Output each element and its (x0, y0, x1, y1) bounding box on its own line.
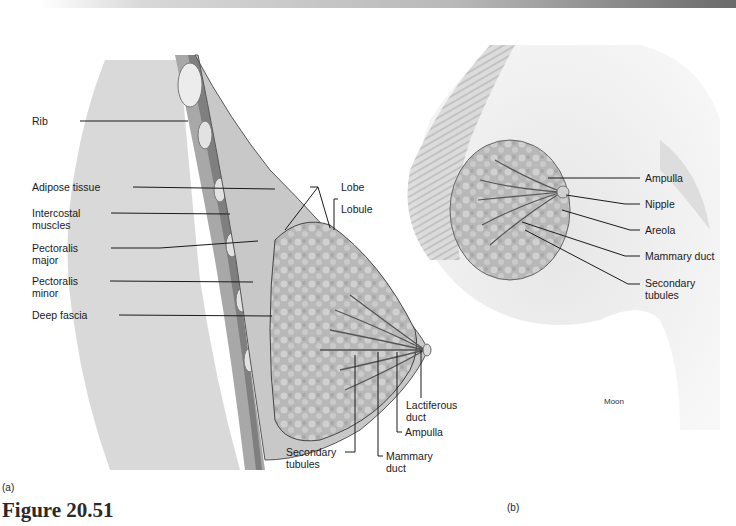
figure-caption: Figure 20.51 (2, 498, 114, 523)
label-secondary-tubules-a: Secondary tubules (286, 446, 336, 470)
label-rib: Rib (32, 115, 48, 127)
label-lobe: Lobe (341, 181, 364, 193)
label-nipple: Nipple (645, 198, 675, 210)
panel-b-marker: (b) (507, 502, 519, 513)
label-secondary-tubules-b: Secondary tubules (645, 277, 695, 301)
label-deep-fascia: Deep fascia (32, 309, 87, 321)
artist-credit: Moon (604, 397, 624, 406)
panel-b-anterior-view (408, 45, 721, 430)
label-adipose-tissue: Adipose tissue (32, 181, 100, 193)
label-pectoralis-major: Pectoralis major (32, 242, 78, 266)
label-mammary-duct-a: Mammary duct (386, 450, 433, 474)
label-pectoralis-minor: Pectoralis minor (32, 275, 78, 299)
label-lactiferous-duct: Lactiferous duct (406, 399, 457, 423)
label-mammary-duct-b: Mammary duct (645, 250, 714, 262)
panel-a-marker: (a) (2, 482, 14, 493)
label-ampulla-a: Ampulla (405, 426, 443, 438)
breast-anatomy-illustration (0, 0, 736, 526)
label-intercostal-muscles: Intercostal muscles (32, 207, 80, 231)
label-lobule: Lobule (341, 203, 373, 215)
label-ampulla-b: Ampulla (645, 172, 683, 184)
label-areola: Areola (645, 224, 675, 236)
panel-a-thorax (68, 55, 432, 470)
